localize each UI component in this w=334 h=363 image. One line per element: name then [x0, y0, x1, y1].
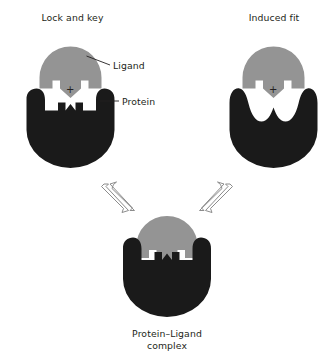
ligand-leader-line — [87, 56, 111, 65]
annotation-label-protein: Protein — [122, 96, 155, 108]
complex-caption-line-1: Protein–Ligand — [97, 328, 237, 340]
annotation-label-ligand: Ligand — [113, 60, 145, 72]
complex-caption: Protein–Ligand complex — [97, 328, 237, 351]
annotation-leader-lines — [0, 0, 334, 363]
figure-root: Lock and key Induced fit + + Ligand Prot… — [0, 0, 334, 363]
complex-caption-line-2: complex — [97, 340, 237, 352]
